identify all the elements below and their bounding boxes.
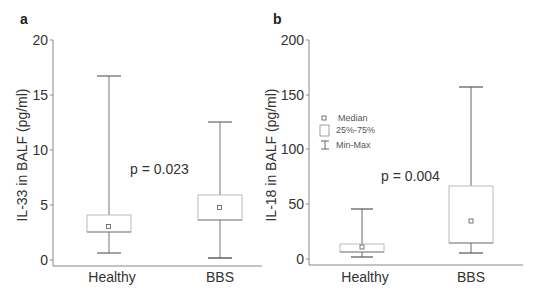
panel-a-box-bbs — [198, 122, 242, 258]
legend-range-label: Min-Max — [336, 140, 371, 150]
median-marker — [218, 206, 222, 210]
panel-b-ytick: 50 — [288, 196, 304, 212]
legend-iqr-icon — [320, 125, 329, 136]
legend-range-icon — [321, 141, 329, 149]
panel-b-ytick: 100 — [281, 141, 305, 157]
panel-a-ytick: 0 — [40, 252, 48, 268]
legend-median-icon — [322, 116, 326, 120]
panel-b-category-healthy: Healthy — [341, 269, 388, 285]
panel-a-ytick: 20 — [32, 32, 48, 48]
figure: a IL-33 in BALF (pg/ml) 0 5 10 15 20 — [0, 0, 541, 300]
panel-a-ytick: 5 — [40, 197, 48, 213]
panel-b-category-bbs: BBS — [457, 269, 485, 285]
panel-a-y-ticks: 0 5 10 15 20 — [32, 32, 53, 268]
legend: Median 25%-75% Min-Max — [320, 113, 375, 150]
panel-a-y-axis-label: IL-33 in BALF (pg/ml) — [14, 88, 30, 221]
panel-b-ytick: 0 — [296, 251, 304, 267]
panel-a-box-healthy — [87, 76, 131, 253]
legend-median-label: Median — [338, 113, 368, 123]
median-marker — [107, 225, 111, 229]
panel-b-y-axis-label: IL-18 in BALF (pg/ml) — [263, 88, 279, 221]
panel-a-category-healthy: Healthy — [88, 269, 135, 285]
panel-a-pvalue: p = 0.023 — [130, 161, 189, 177]
median-marker — [469, 219, 473, 223]
panel-b-pvalue: p = 0.004 — [381, 168, 440, 184]
panel-b: b IL-18 in BALF (pg/ml) 0 50 100 150 200… — [263, 11, 523, 285]
panel-a-category-bbs: BBS — [206, 269, 234, 285]
panel-b-y-ticks: 0 50 100 150 200 — [281, 32, 309, 267]
panel-a-ytick: 15 — [32, 87, 48, 103]
panel-a-ytick: 10 — [32, 142, 48, 158]
panel-a-label: a — [20, 11, 28, 27]
panel-b-ytick: 200 — [281, 32, 305, 48]
panel-b-ytick: 150 — [281, 87, 305, 103]
panel-b-label: b — [273, 11, 282, 27]
panel-b-box-healthy — [340, 209, 384, 257]
median-marker — [360, 245, 364, 249]
panel-b-box-bbs — [449, 87, 493, 253]
legend-iqr-label: 25%-75% — [336, 125, 375, 135]
panel-a: a IL-33 in BALF (pg/ml) 0 5 10 15 20 — [14, 11, 262, 285]
